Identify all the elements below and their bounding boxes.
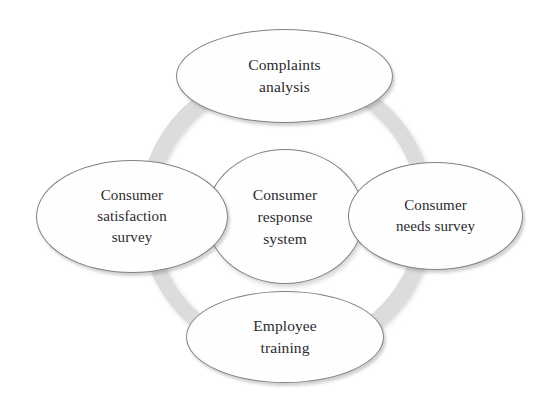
node-label: Employeetraining <box>241 315 329 359</box>
node-label-line1: Consumer <box>91 185 173 206</box>
diagram-canvas: Complaintsanalysis Consumersatisfactions… <box>0 0 555 407</box>
node-consumer-needs-survey[interactable]: Consumerneeds survey <box>348 162 523 270</box>
node-label: Consumerneeds survey <box>384 195 487 238</box>
node-label-line3: survey <box>91 227 173 248</box>
node-label: Consumersatisfactionsurvey <box>85 185 179 249</box>
node-label-line1: Consumer <box>247 184 324 206</box>
node-label-line2: analysis <box>242 76 326 98</box>
node-employee-training[interactable]: Employeetraining <box>186 291 384 383</box>
node-consumer-response-system[interactable]: Consumerresponsesystem <box>206 149 364 284</box>
node-label-line1: Complaints <box>242 54 326 76</box>
node-label-line3: system <box>247 228 324 250</box>
node-label-line2: training <box>247 337 323 359</box>
node-consumer-satisfaction-survey[interactable]: Consumersatisfactionsurvey <box>36 160 228 273</box>
node-label-line1: Consumer <box>390 195 481 216</box>
node-complaints-analysis[interactable]: Complaintsanalysis <box>176 29 393 123</box>
node-label: Consumerresponsesystem <box>241 184 330 250</box>
node-label-line1: Employee <box>247 315 323 337</box>
node-label-line2: response <box>247 206 324 228</box>
node-label: Complaintsanalysis <box>236 54 332 98</box>
node-label-line2: needs survey <box>390 216 481 237</box>
node-label-line2: satisfaction <box>91 206 173 227</box>
